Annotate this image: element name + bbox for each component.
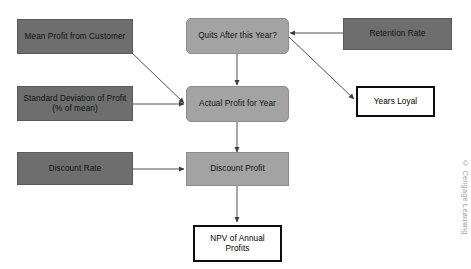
node-standard-deviation-of-profit[interactable]: Standard Deviation of Profit (% of mean) [17,86,133,121]
node-label: Retention Rate [366,29,428,38]
node-quits-after-this-year[interactable]: Quits After this Year? [186,18,289,54]
node-label: Mean Profit from Customer [22,32,129,41]
node-label: Discount Profit [207,164,268,173]
copyright-credit: © Cengage Learning [456,159,470,263]
node-years-loyal[interactable]: Years Loyal [356,86,435,117]
node-npv-of-annual-profits[interactable]: NPV of Annual Profits [193,225,282,262]
node-discount-profit[interactable]: Discount Profit [186,152,289,186]
node-label: Quits After this Year? [195,31,280,40]
node-actual-profit-for-year[interactable]: Actual Profit for Year [186,86,289,122]
node-label: Years Loyal [371,97,421,106]
influence-diagram-canvas: Mean Profit from Customer Quits After th… [0,0,471,269]
edge-mean-profit-to-actual-profit [131,52,184,103]
node-label: Standard Deviation of Profit (% of mean) [18,94,132,113]
node-label: Discount Rate [46,164,105,173]
node-discount-rate[interactable]: Discount Rate [17,152,133,185]
node-retention-rate[interactable]: Retention Rate [343,18,452,50]
node-label: Actual Profit for Year [196,99,279,108]
node-label: NPV of Annual Profits [195,234,280,253]
node-mean-profit-from-customer[interactable]: Mean Profit from Customer [17,19,133,54]
